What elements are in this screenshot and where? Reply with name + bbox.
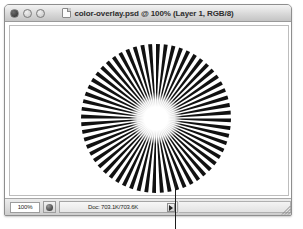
status-bar: 100% Doc: 703.1K/703.6K: [5, 198, 292, 215]
canvas-area[interactable]: [5, 22, 292, 200]
minimize-button[interactable]: [23, 9, 32, 18]
document-window: color-overlay.psd @ 100% (Layer 1, RGB/8…: [4, 4, 292, 216]
status-popup-arrow-icon[interactable]: [167, 203, 175, 212]
image-canvas[interactable]: [9, 25, 289, 196]
zoom-level-field[interactable]: 100%: [10, 202, 40, 213]
document-proxy-icon: [62, 8, 71, 18]
window-titlebar[interactable]: color-overlay.psd @ 100% (Layer 1, RGB/8…: [5, 5, 291, 22]
resize-grip-icon[interactable]: [278, 202, 291, 215]
document-size-field[interactable]: Doc: 703.1K/703.6K: [59, 201, 178, 213]
status-proxy-button[interactable]: [43, 201, 56, 213]
window-title: color-overlay.psd @ 100% (Layer 1, RGB/8…: [74, 9, 233, 18]
proxy-glyph-icon: [46, 204, 53, 211]
zoom-button[interactable]: [36, 9, 45, 18]
titlebar-center: color-overlay.psd @ 100% (Layer 1, RGB/8…: [5, 8, 291, 18]
annotation-leader-line: [175, 180, 176, 229]
document-size-label: Doc: 703.1K/703.6K: [88, 204, 138, 210]
close-button[interactable]: [10, 9, 19, 18]
window-controls: [10, 9, 45, 18]
radial-starburst-artwork: [10, 26, 288, 195]
status-bar-filler: [179, 201, 291, 213]
